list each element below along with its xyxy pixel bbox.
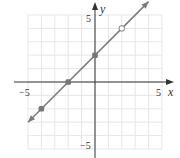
y-tick-neg5: −5 xyxy=(80,140,91,151)
y-axis-arrow-icon xyxy=(92,2,98,10)
open-point xyxy=(119,26,125,32)
x-tick-5: 5 xyxy=(156,87,161,98)
coordinate-plane: −5 5 5 −5 x y xyxy=(0,0,180,158)
y-tick-5: 5 xyxy=(86,13,91,24)
y-axis-label: y xyxy=(99,2,106,16)
axes xyxy=(14,2,174,158)
filled-point xyxy=(92,52,98,58)
filled-point xyxy=(65,79,71,85)
x-tick-neg5: −5 xyxy=(19,87,30,98)
x-axis-label: x xyxy=(167,85,174,99)
filled-point xyxy=(39,106,45,112)
